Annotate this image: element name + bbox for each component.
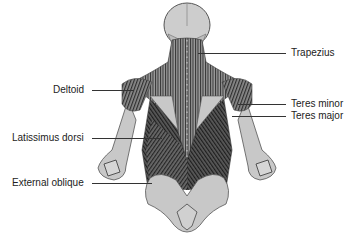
label-deltoid: Deltoid [53,84,84,96]
leader-line-teres-major [232,116,286,117]
label-teres-minor: Teres minor [291,98,343,110]
leader-line-latissimus-dorsi [92,138,162,139]
leader-line-trapezius [198,53,286,54]
right-arm [238,100,276,180]
label-latissimus-dorsi: Latissimus dorsi [12,132,84,144]
label-teres-major: Teres major [291,110,343,122]
label-trapezius: Trapezius [291,47,335,59]
left-arm [98,100,136,180]
leader-line-teres-minor [238,104,286,105]
leader-line-deltoid [92,90,134,91]
leader-line-external-oblique [92,183,152,184]
label-external-oblique: External oblique [12,177,84,189]
